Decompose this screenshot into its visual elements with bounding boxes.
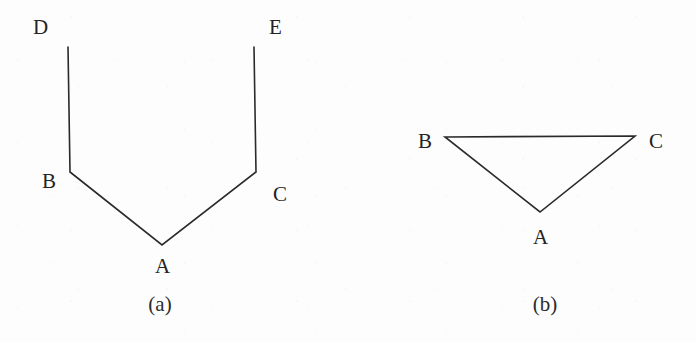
panel-b-caption: (b) (525, 294, 565, 315)
vertex-label-a: A (533, 227, 548, 248)
panel-b-diagram (348, 0, 696, 342)
vertex-label-e: E (269, 17, 282, 38)
vertex-label-b: B (42, 171, 56, 192)
figure-root: D B A C E (a) B C A (b) (0, 0, 696, 342)
panel-a-polyline (68, 47, 256, 245)
vertex-label-a: A (155, 256, 170, 277)
panel-a-caption: (a) (140, 294, 180, 315)
panel-a: D B A C E (a) (0, 0, 348, 342)
panel-b-triangle (445, 136, 635, 212)
vertex-label-d: D (33, 17, 48, 38)
vertex-label-c: C (649, 131, 663, 152)
vertex-label-b: B (418, 131, 432, 152)
vertex-label-c: C (273, 184, 287, 205)
panel-b: B C A (b) (348, 0, 696, 342)
